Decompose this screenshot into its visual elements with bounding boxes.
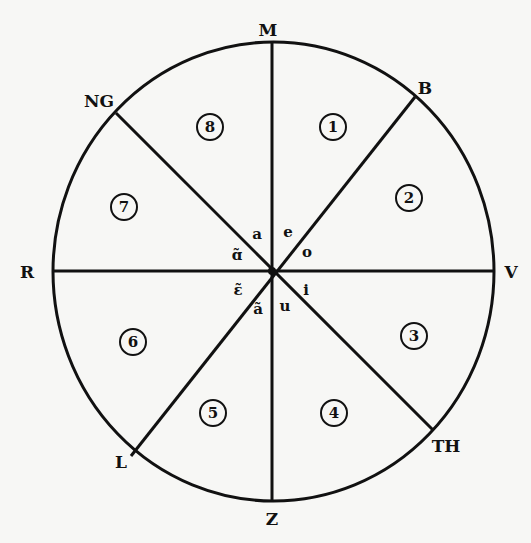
label-z: Z bbox=[266, 511, 278, 528]
vowel-i: i bbox=[303, 283, 309, 298]
sector-5-badge: 5 bbox=[199, 399, 227, 427]
sector-6-badge: 6 bbox=[119, 328, 147, 356]
vowel-nasal-e: ɛ̃ bbox=[233, 283, 242, 298]
vowel-a: a bbox=[252, 227, 262, 242]
label-v: V bbox=[504, 264, 517, 281]
sector-3-badge: 3 bbox=[400, 322, 428, 350]
sector-diagram bbox=[0, 0, 531, 543]
vowel-nasal-a: ã bbox=[253, 302, 263, 317]
vowel-nasal-o: ɑ̃ bbox=[232, 248, 243, 263]
sector-2-badge: 2 bbox=[395, 184, 423, 212]
vowel-u: u bbox=[280, 299, 291, 314]
label-th: TH bbox=[432, 438, 461, 455]
sector-8-badge: 8 bbox=[196, 113, 224, 141]
center-point bbox=[268, 267, 276, 275]
label-l: L bbox=[115, 454, 127, 471]
vowel-o: o bbox=[302, 245, 312, 260]
label-b: B bbox=[418, 80, 432, 97]
label-m: M bbox=[259, 22, 278, 39]
sector-7-badge: 7 bbox=[110, 193, 138, 221]
sector-4-badge: 4 bbox=[320, 399, 348, 427]
label-ng: NG bbox=[84, 93, 114, 110]
sector-1-badge: 1 bbox=[319, 113, 347, 141]
label-r: R bbox=[20, 264, 34, 281]
vowel-e: e bbox=[283, 225, 293, 240]
